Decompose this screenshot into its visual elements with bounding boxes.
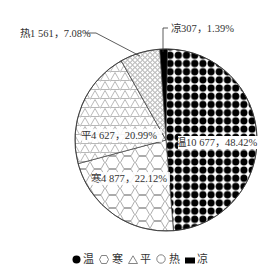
filled-rect-icon — [185, 257, 195, 264]
legend-item-re: 热 — [156, 250, 180, 266]
legend-item-wen: 温 — [72, 250, 95, 266]
label-wen: 温10 677，48.42% — [176, 137, 258, 148]
triangle-outline-icon — [128, 255, 138, 264]
label-liang: 凉307，1.39% — [171, 22, 234, 34]
leader-line-liang — [163, 28, 168, 52]
legend-item-ping: 平 — [128, 250, 152, 266]
legend-item-han: 寒 — [99, 250, 123, 266]
pie-chart: 热1 561，7.08% 凉307，1.39% 温10 677，48.42% 平… — [0, 0, 280, 250]
filled-circle-icon — [72, 255, 81, 264]
label-ping: 平4 627，20.99% — [81, 130, 157, 141]
label-han: 寒4 877，22.12% — [91, 172, 167, 184]
label-re: 热1 561，7.08% — [20, 27, 91, 39]
chart-legend: 温 寒 平 热 凉 — [0, 250, 280, 266]
legend-item-liang: 凉 — [185, 250, 209, 266]
hexagon-outline-icon — [99, 255, 109, 264]
leader-line-re — [85, 33, 140, 56]
circle-outline-icon — [156, 254, 166, 264]
